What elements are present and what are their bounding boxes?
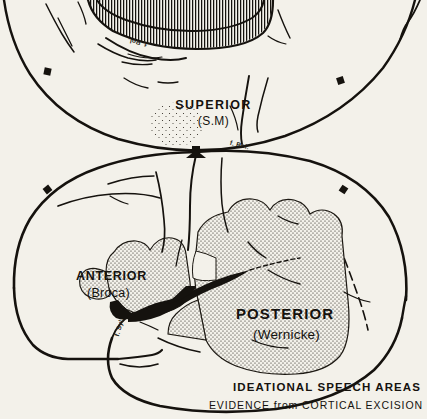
superior-view-group bbox=[4, 0, 420, 162]
brain-speech-areas-figure: SUPERIOR (S.M) ANTERIOR (Broca) POSTERIO… bbox=[0, 0, 427, 419]
figure-illustration bbox=[0, 0, 427, 419]
lateral-view-group bbox=[14, 146, 407, 412]
excision-marker bbox=[43, 67, 51, 75]
